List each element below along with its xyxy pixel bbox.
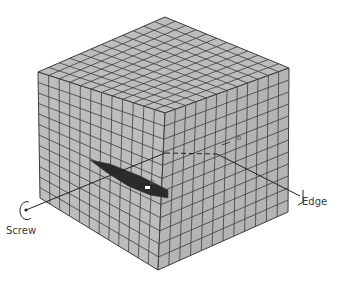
screw-axis-dot-icon — [24, 208, 27, 211]
edge-dislocation-label: Edge — [302, 196, 327, 207]
burgers-vector-marker — [145, 186, 150, 189]
crystal-lattice-diagram — [0, 0, 348, 291]
screw-dislocation-label: Screw — [6, 225, 36, 236]
burgers-vector-label-top: b — [237, 134, 241, 142]
burgers-vector-label-bottom: b — [150, 178, 154, 186]
